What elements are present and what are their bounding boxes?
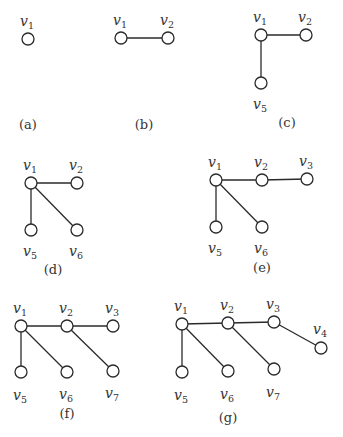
node-label-v6: v6 <box>254 240 268 258</box>
edge-v1-v2 <box>182 323 228 324</box>
edge-v2-v3 <box>262 179 307 180</box>
figure-svg: v1(a)v1v2(b)v1v2v5(c)v1v2v5v6(d)v1v2v3v5… <box>0 0 343 437</box>
subfigure-c: v1v2v5(c) <box>253 9 312 130</box>
edge-v2-v7 <box>228 323 274 369</box>
subfigure-caption-d: (d) <box>44 262 62 277</box>
node-v5 <box>25 224 37 236</box>
subfigure-caption-b: (b) <box>135 117 153 132</box>
node-v1 <box>25 177 37 189</box>
node-v2 <box>71 177 83 189</box>
edge-v1-v6 <box>31 183 77 230</box>
node-v5 <box>210 221 222 233</box>
node-label-v1: v1 <box>253 9 267 27</box>
node-v2 <box>162 32 174 44</box>
node-v4 <box>315 342 327 354</box>
node-v3 <box>107 320 119 332</box>
node-v5 <box>255 77 267 89</box>
node-v1 <box>255 29 267 41</box>
node-label-v6: v6 <box>220 386 234 404</box>
subfigure-caption-f: (f) <box>60 406 75 421</box>
node-label-v5: v5 <box>208 240 222 258</box>
node-v6 <box>222 365 234 377</box>
node-v2 <box>61 320 73 332</box>
node-v2 <box>256 174 268 186</box>
node-v1 <box>15 320 27 332</box>
node-label-v7: v7 <box>266 384 280 402</box>
node-v6 <box>61 366 73 378</box>
node-label-v5: v5 <box>23 243 37 261</box>
node-label-v1: v1 <box>23 157 37 175</box>
node-label-v4: v4 <box>313 321 327 339</box>
subfigure-caption-a: (a) <box>19 117 37 132</box>
node-label-v6: v6 <box>59 386 73 404</box>
node-v1 <box>22 33 34 45</box>
edge-v1-v6 <box>182 324 228 371</box>
node-label-v2: v2 <box>160 12 174 30</box>
node-label-v2: v2 <box>254 154 268 172</box>
node-label-v1: v1 <box>113 12 127 30</box>
node-v2 <box>222 317 234 329</box>
node-label-v1: v1 <box>208 154 222 172</box>
node-v1 <box>210 174 222 186</box>
node-label-v1: v1 <box>20 13 34 31</box>
subfigure-f: v1v2v3v5v6v7(f) <box>13 300 119 421</box>
node-v6 <box>256 221 268 233</box>
node-label-v2: v2 <box>298 9 312 27</box>
node-label-v3: v3 <box>105 300 119 318</box>
node-label-v2: v2 <box>59 300 73 318</box>
node-v5 <box>15 366 27 378</box>
node-v1 <box>115 32 127 44</box>
node-v5 <box>176 366 188 378</box>
subfigure-a: v1(a) <box>19 13 37 132</box>
node-label-v3: v3 <box>299 153 313 171</box>
subfigure-caption-g: (g) <box>219 410 237 425</box>
edge-v1-v6 <box>21 326 67 372</box>
subfigure-caption-c: (c) <box>278 115 295 130</box>
subfigure-caption-e: (e) <box>253 260 271 275</box>
node-label-v7: v7 <box>105 385 119 403</box>
node-label-v5: v5 <box>174 387 188 405</box>
node-label-v1: v1 <box>174 298 188 316</box>
node-label-v2: v2 <box>69 157 83 175</box>
subfigure-b: v1v2(b) <box>113 12 174 132</box>
edge-v2-v7 <box>67 326 113 371</box>
graph-sequence-figure: v1(a)v1v2(b)v1v2v5(c)v1v2v5v6(d)v1v2v3v5… <box>0 0 343 437</box>
node-v2 <box>300 29 312 41</box>
edge-v1-v6 <box>216 180 262 227</box>
node-label-v3: v3 <box>266 296 280 314</box>
node-v1 <box>176 318 188 330</box>
node-label-v2: v2 <box>220 297 234 315</box>
edge-v2-v3 <box>228 322 274 323</box>
node-v3 <box>268 316 280 328</box>
node-v3 <box>301 173 313 185</box>
node-label-v5: v5 <box>13 387 27 405</box>
subfigure-e: v1v2v3v5v6(e) <box>208 153 313 275</box>
subfigure-d: v1v2v5v6(d) <box>23 157 83 277</box>
node-label-v6: v6 <box>69 243 83 261</box>
node-label-v1: v1 <box>13 300 27 318</box>
node-v6 <box>71 224 83 236</box>
node-v7 <box>107 365 119 377</box>
node-label-v5: v5 <box>253 96 267 114</box>
subfigure-g: v1v2v3v4v5v6v7(g) <box>174 296 327 425</box>
node-v7 <box>268 363 280 375</box>
